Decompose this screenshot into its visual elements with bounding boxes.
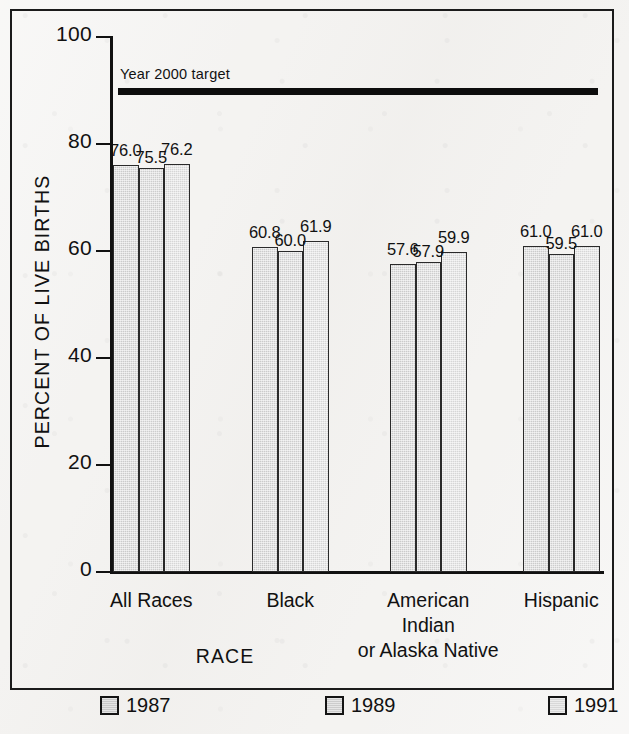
y-axis-tick [96,36,111,38]
bar-value-label: 76.2 [155,140,199,159]
bar-hispanic-1989 [549,254,575,572]
bar-all-races-1991 [164,164,190,572]
chart-legend: 198719891991 [0,694,629,728]
legend-item-1987: 1987 [100,694,171,717]
bar-black-1987 [252,247,278,572]
chart-plot-area: 020406080100 PERCENT OF LIVE BIRTHS Year… [0,0,629,734]
category-label-line: Indian [338,613,518,638]
legend-label: 1991 [574,694,619,717]
year-2000-target-line [118,88,598,95]
bar-american-indian-or-alaska-native-1991 [441,252,467,572]
bar-hispanic-1987 [523,246,549,572]
y-axis-title: PERCENT OF LIVE BIRTHS [31,102,54,522]
y-axis-tick [96,250,111,252]
year-2000-target-label: Year 2000 target [120,66,230,82]
bar-black-1989 [278,251,304,572]
legend-label: 1989 [351,694,396,717]
y-axis-tick [96,464,111,466]
bar-all-races-1989 [139,168,165,572]
legend-item-1991: 1991 [548,694,619,717]
y-axis-tick-label: 100 [30,22,92,46]
category-label-hispanic: Hispanic [471,588,629,613]
legend-label: 1987 [126,694,171,717]
bar-value-label: 59.9 [432,228,476,247]
legend-item-1989: 1989 [325,694,396,717]
bar-black-1991 [303,241,329,572]
y-axis-tick [96,571,111,573]
y-axis-tick [96,357,111,359]
legend-swatch-icon [548,696,567,715]
bar-all-races-1987 [113,165,139,572]
bar-hispanic-1991 [574,246,600,572]
bar-american-indian-or-alaska-native-1987 [390,264,416,572]
legend-swatch-icon [100,696,119,715]
legend-swatch-icon [325,696,344,715]
bar-value-label: 61.0 [565,222,609,241]
category-label-line: Hispanic [471,588,629,613]
bar-value-label: 61.9 [294,217,338,236]
y-axis-tick-label: 0 [30,557,92,581]
x-axis-title: RACE [150,645,300,668]
category-label-line: or Alaska Native [338,638,518,663]
bar-american-indian-or-alaska-native-1989 [416,262,442,572]
